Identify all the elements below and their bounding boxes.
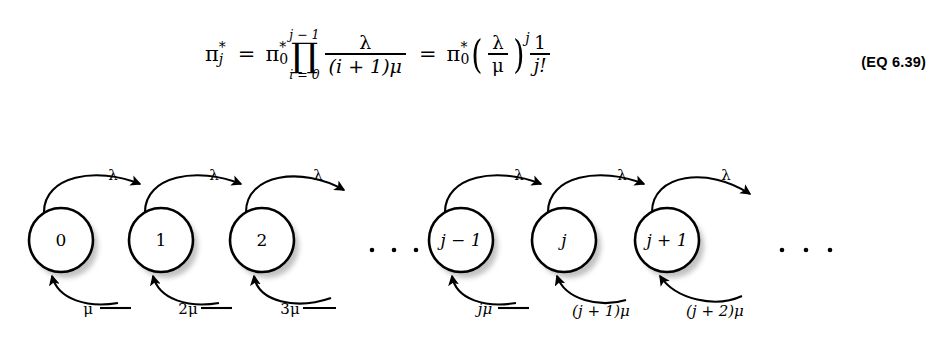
equation-number: (EQ 6.39) [861, 54, 926, 70]
pi-j-star: π * j [205, 42, 219, 66]
departure-arcs [52, 276, 742, 304]
lambda-over-i-plus-one-mu: λ (i + 1)μ [325, 32, 406, 76]
ellipsis-dot-middle-2 [392, 248, 397, 253]
equals-sign-1: = [238, 42, 256, 66]
fraction-numerator: λ [355, 32, 375, 53]
edge-label-lambda-5: λ [617, 166, 627, 184]
arrival-arcs [44, 175, 750, 212]
pi-zero-star-1: π * 0 [265, 42, 279, 66]
arc-lambda-jm1-j [548, 175, 644, 212]
arc-lambda-0-1 [44, 175, 140, 212]
equation-block: π * j = π * 0 j − 1 ∏ i = 0 λ (i + 1)μ [0, 14, 940, 94]
edge-label-mu-6: (j + 2)μ [686, 302, 744, 320]
arc-lambda-prev-jm1 [445, 175, 541, 212]
fraction-denominator: j! [530, 55, 551, 75]
ellipsis-dot-middle-1 [370, 248, 375, 253]
edge-label-mu-2: 2μ [178, 300, 198, 318]
markov-chain-svg: 0 1 2 j − 1 j j + 1 λ λ λ λ λ λ μ 2μ 3μ [0, 140, 940, 339]
figure-page: π * j = π * 0 j − 1 ∏ i = 0 λ (i + 1)μ [0, 0, 940, 339]
node-label-1: 1 [156, 230, 167, 250]
pi-zero-subscript: 0 [460, 51, 469, 67]
fraction-denominator: (i + 1)μ [325, 55, 406, 76]
product-operator: j − 1 ∏ i = 0 [289, 28, 319, 83]
edge-label-lambda-2: λ [209, 166, 219, 184]
edge-label-lambda-1: λ [108, 166, 118, 184]
pi-symbol: π [205, 42, 219, 66]
edge-label-mu-4: jμ [475, 300, 492, 318]
node-label-2: 2 [257, 230, 268, 250]
edge-label-mu-1: μ [83, 300, 93, 318]
product-glyph: ∏ [291, 41, 318, 70]
edge-label-mu-5: (j + 1)μ [572, 302, 630, 320]
pi-symbol: π [447, 42, 461, 66]
ellipsis-dot-middle-3 [414, 248, 419, 253]
right-paren: ) [513, 41, 524, 67]
edge-label-mu-3: 3μ [280, 300, 300, 318]
edge-label-lambda-4: λ [514, 166, 524, 184]
ellipsis-dot-right-3 [828, 248, 833, 253]
arc-mu-next-jp1 [660, 276, 742, 302]
edge-label-lambda-6: λ [721, 166, 731, 184]
pi-zero-star-2: π * 0 [447, 42, 461, 66]
arc-lambda-2-next [246, 176, 344, 212]
node-label-0: 0 [56, 230, 67, 250]
ellipsis-dot-right-2 [804, 248, 809, 253]
fraction-denominator: μ [488, 55, 508, 75]
fraction-numerator: λ [488, 33, 507, 53]
arc-mu-jp1-j [557, 276, 626, 303]
pi-j-subscript: j [219, 51, 223, 67]
equals-sign-2: = [419, 42, 437, 66]
arc-lambda-1-2 [145, 175, 241, 212]
one-over-j-factorial: 1 j! [530, 33, 551, 75]
lambda-over-mu-power-j: ( λ μ ) j [469, 33, 530, 75]
exponent-j: j [525, 30, 529, 46]
node-label-j-minus-1: j − 1 [436, 230, 481, 250]
fraction-numerator: 1 [530, 33, 549, 53]
pi-symbol: π [265, 42, 279, 66]
edge-label-lambda-3: λ [313, 166, 323, 184]
ellipsis-dot-right-1 [780, 248, 785, 253]
equation-expression: π * j = π * 0 j − 1 ∏ i = 0 λ (i + 1)μ [205, 14, 553, 94]
node-label-j-plus-1: j + 1 [642, 230, 687, 250]
markov-chain-diagram: 0 1 2 j − 1 j j + 1 λ λ λ λ λ λ μ 2μ 3μ [0, 140, 940, 339]
product-lower-limit: i = 0 [289, 68, 319, 82]
left-paren: ( [472, 41, 483, 67]
lambda-over-mu: λ μ [488, 33, 508, 75]
pi-zero-subscript: 0 [279, 51, 288, 67]
mu-labels: μ 2μ 3μ jμ (j + 1)μ (j + 2)μ [83, 300, 744, 320]
